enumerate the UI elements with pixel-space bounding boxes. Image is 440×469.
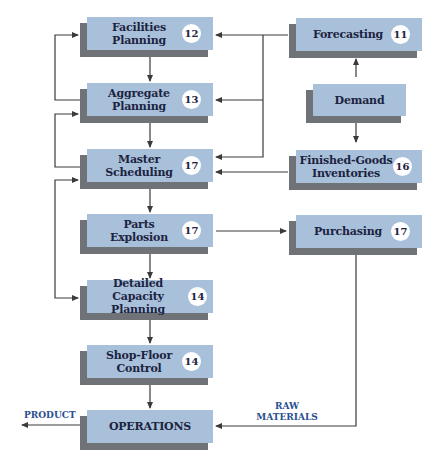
chapter-badge: 11: [391, 25, 410, 44]
product-label: PRODUCT: [24, 410, 76, 421]
chapter-badge: 16: [393, 157, 412, 176]
box-finished-goods-inventories: Finished-GoodsInventories 16: [289, 150, 422, 190]
box-label: Purchasing: [314, 225, 382, 238]
box-label-line1: Master: [118, 153, 160, 166]
box-forecasting: Forecasting 11: [289, 18, 422, 58]
box-master-scheduling: MasterScheduling 17: [80, 149, 213, 189]
chapter-badge: 14: [188, 287, 207, 306]
box-parts-explosion: PartsExplosion 17: [80, 214, 213, 254]
box-label-line2: Explosion: [110, 231, 168, 244]
box-label-line2: Planning: [112, 34, 166, 47]
box-label-line1: Parts: [123, 218, 154, 231]
box-label-line2: Inventories: [312, 167, 380, 180]
box-label-line2: Planning: [112, 100, 166, 113]
box-detailed-capacity-planning: DetailedCapacity Planning 14: [80, 280, 213, 320]
feedback-to-master: [55, 180, 78, 240]
raw-materials-line2: MATERIALS: [256, 412, 318, 422]
raw-materials-label: RAW MATERIALS: [255, 401, 319, 423]
box-label-line1: Shop-Floor: [106, 349, 172, 362]
box-demand: Demand: [306, 84, 406, 123]
chapter-badge: 12: [182, 24, 201, 43]
box-label: Demand: [335, 94, 385, 107]
box-label: Forecasting: [313, 28, 383, 41]
feedback-aggregate-to-facilities: [55, 35, 80, 100]
chapter-badge: 17: [391, 222, 410, 241]
box-label-line1: Detailed: [113, 277, 163, 290]
raw-materials-line1: RAW: [275, 401, 299, 411]
box-aggregate-planning: AggregatePlanning 13: [80, 83, 213, 123]
feedback-master-to-aggregate: [55, 114, 80, 167]
chapter-badge: 17: [182, 221, 201, 240]
box-label-line1: Finished-Goods: [300, 154, 393, 167]
box-label-line1: Facilities: [112, 21, 166, 34]
chapter-badge: 13: [182, 90, 201, 109]
chapter-badge: 14: [182, 352, 201, 371]
box-shop-floor-control: Shop-FloorControl 14: [80, 345, 213, 385]
planning-hierarchy-diagram: FacilitiesPlanning 12 AggregatePlanning …: [0, 0, 440, 469]
chapter-badge: 17: [182, 156, 201, 175]
box-label-line2: Control: [116, 362, 161, 375]
box-operations: OPERATIONS: [80, 410, 213, 450]
box-facilities-planning: FacilitiesPlanning 12: [80, 17, 213, 57]
box-label-line2: Scheduling: [105, 166, 172, 179]
box-label-line2: Capacity Planning: [111, 290, 165, 316]
feedback-to-detailed: [55, 240, 78, 298]
arrow-forecasting-to-master: [216, 35, 263, 157]
box-label: OPERATIONS: [109, 420, 191, 433]
box-purchasing: Purchasing 17: [289, 215, 422, 255]
box-label-line1: Aggregate: [108, 87, 170, 100]
